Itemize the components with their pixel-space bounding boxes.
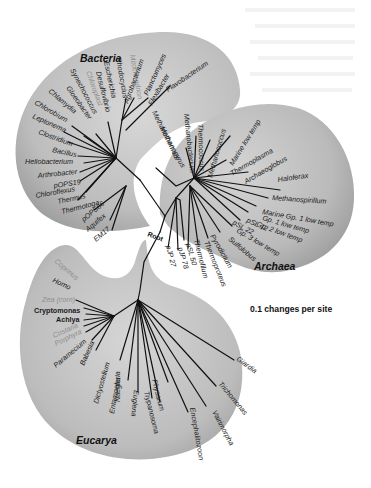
taxon-label: pJP 27 xyxy=(164,243,179,269)
taxon-label: Zea (corn) xyxy=(41,295,75,304)
taxon-label: Cryptomonas xyxy=(34,306,80,315)
taxon-label: Naegleria xyxy=(113,371,122,402)
taxon-label: Achlya xyxy=(56,315,81,324)
taxon-label: Thermococcus xyxy=(196,124,207,172)
phylogenetic-tree-svg: Bacteria Archaea Eucarya Root 0.1 change… xyxy=(0,0,371,488)
domain-label-eucarya: Eucarya xyxy=(76,434,117,446)
scale-label: 0.1 changes per site xyxy=(250,304,332,314)
tree-of-life-figure: Bacteria Archaea Eucarya Root 0.1 change… xyxy=(0,0,371,488)
domain-label-archaea: Archaea xyxy=(253,260,296,272)
taxon-label: Heliobacterium xyxy=(25,157,73,166)
ghost-text xyxy=(245,8,355,92)
